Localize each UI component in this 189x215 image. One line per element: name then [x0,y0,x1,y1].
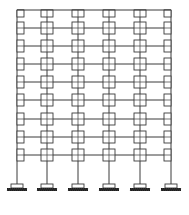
support-pedestal [41,184,53,188]
support-pedestal [134,184,146,188]
joints-group [17,10,171,161]
support-pedestal [72,184,84,188]
beams-group [17,10,171,155]
joint-panel-zone [164,10,171,17]
fixed-supports-group [7,184,181,191]
support-pedestal [11,184,23,188]
support-pedestal [103,184,115,188]
structural-frame-diagram [0,0,189,215]
joint-panel-zone [17,10,24,17]
support-pedestal [165,184,177,188]
columns-group [17,10,171,188]
